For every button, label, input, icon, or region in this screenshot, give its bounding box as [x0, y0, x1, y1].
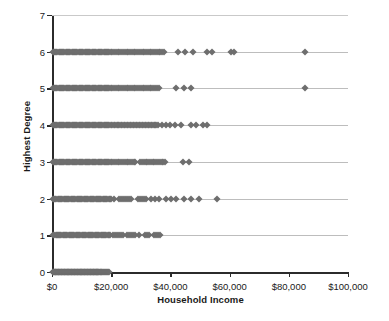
data-point — [302, 85, 309, 92]
x-tick-label-0: $0 — [47, 281, 58, 292]
plot-area: 01234567$0$20,000$40,000$60,000$80,000$1… — [52, 15, 348, 272]
y-tick-7 — [47, 15, 52, 16]
data-point — [195, 195, 202, 202]
y-tick-label-0: 0 — [40, 267, 45, 278]
x-tick-label-80000: $80,000 — [272, 281, 306, 292]
gridline-y-7 — [52, 15, 348, 16]
data-point — [182, 48, 189, 55]
data-point — [177, 122, 184, 129]
x-tick-60000 — [230, 272, 231, 277]
data-point — [204, 122, 211, 129]
y-tick-label-3: 3 — [40, 156, 45, 167]
x-tick-100000 — [348, 272, 349, 277]
y-tick-label-1: 1 — [40, 230, 45, 241]
x-axis-title: Household Income — [52, 294, 349, 305]
x-tick-label-60000: $60,000 — [212, 281, 246, 292]
y-tick-label-6: 6 — [40, 46, 45, 57]
x-tick-label-40000: $40,000 — [153, 281, 187, 292]
y-tick-label-2: 2 — [40, 193, 45, 204]
x-tick-80000 — [289, 272, 290, 277]
x-tick-label-100000: $100,000 — [328, 281, 368, 292]
data-point — [173, 85, 180, 92]
data-point — [172, 195, 179, 202]
y-tick-label-7: 7 — [40, 10, 45, 21]
data-point — [188, 195, 195, 202]
data-point — [192, 122, 199, 129]
y-tick-label-4: 4 — [40, 120, 45, 131]
y-tick-label-5: 5 — [40, 83, 45, 94]
x-tick-40000 — [170, 272, 171, 277]
scatter-chart: Highest Degree 01234567$0$20,000$40,000$… — [0, 0, 389, 321]
x-tick-label-20000: $20,000 — [94, 281, 128, 292]
data-point — [214, 195, 221, 202]
data-point — [302, 48, 309, 55]
data-point — [180, 85, 187, 92]
data-point — [185, 158, 192, 165]
y-axis-title: Highest Degree — [21, 67, 32, 207]
data-point — [189, 48, 196, 55]
data-point — [188, 85, 195, 92]
data-point — [208, 48, 215, 55]
